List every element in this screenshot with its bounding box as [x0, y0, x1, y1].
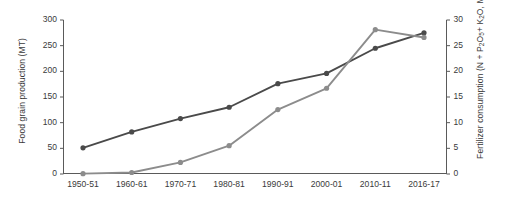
y-axis-right-tick-label: 20	[454, 65, 484, 75]
y-axis-left-ticks	[60, 20, 64, 174]
x-axis-tick-label: 2016-17	[395, 179, 453, 189]
y-axis-right-tick-label: 15	[454, 91, 484, 101]
data-point-marker	[421, 35, 426, 40]
y-axis-left-tick-label: 50	[27, 142, 57, 152]
y-axis-right-tick-label: 5	[454, 142, 484, 152]
data-point-marker	[227, 105, 232, 110]
y-axis-right-ticks	[447, 20, 451, 174]
data-point-marker	[80, 171, 85, 176]
series-line	[83, 30, 424, 174]
data-point-marker	[129, 170, 134, 175]
data-point-marker	[324, 71, 329, 76]
data-point-marker	[373, 46, 378, 51]
y-axis-right-tick-label: 25	[454, 40, 484, 50]
data-point-marker	[178, 116, 183, 121]
data-point-marker	[275, 81, 280, 86]
data-point-marker	[275, 107, 280, 112]
y-axis-right-tick-label: 0	[454, 168, 484, 178]
y-axis-right-tick-label: 30	[454, 14, 484, 24]
chart-container: Food grain production (MT) Fertilizer co…	[0, 0, 510, 212]
data-point-marker	[178, 160, 183, 165]
y-axis-left-tick-label: 300	[27, 14, 57, 24]
y-axis-left-tick-label: 0	[27, 168, 57, 178]
y-axis-left-tick-label: 250	[27, 40, 57, 50]
data-series	[80, 30, 426, 150]
data-point-marker	[129, 129, 134, 134]
y-axis-right-tick-label: 10	[454, 117, 484, 127]
data-point-marker	[324, 86, 329, 91]
y-axis-left-tick-label: 150	[27, 91, 57, 101]
data-point-marker	[373, 27, 378, 32]
y-axis-left-tick-label: 200	[27, 65, 57, 75]
data-point-marker	[80, 145, 85, 150]
data-point-marker	[227, 143, 232, 148]
series-layer	[80, 27, 426, 176]
series-line	[83, 33, 424, 148]
y-axis-left-tick-label: 100	[27, 117, 57, 127]
data-point-marker	[421, 30, 426, 35]
